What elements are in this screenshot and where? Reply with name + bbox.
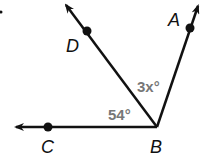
stray-dot <box>0 11 3 14</box>
angle-dba-label: 3x° <box>137 78 160 95</box>
label-d: D <box>66 36 79 56</box>
point-d <box>83 27 92 36</box>
label-a: A <box>167 10 180 30</box>
angle-cbd-label: 54° <box>108 106 131 123</box>
point-a <box>186 24 195 33</box>
label-b: B <box>150 137 162 157</box>
point-c <box>44 123 53 132</box>
label-c: C <box>41 137 55 157</box>
angle-diagram: A B C D 54° 3x° <box>0 0 202 157</box>
